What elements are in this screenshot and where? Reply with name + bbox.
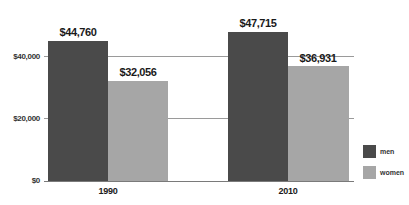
xlabel-2010: 2010 [279,186,298,196]
legend-label-men: men [380,148,394,155]
value-label-1990-men: $44,760 [60,26,97,38]
value-label-2010-men: $47,715 [240,17,277,29]
legend-swatch-men [363,145,376,158]
ytick-40000: $40,000 [13,52,40,61]
xlabel-1990: 1990 [99,186,118,196]
bar-1990-women [108,81,168,181]
bar-1990-men [48,41,108,181]
bar-2010-men [228,32,288,181]
bar-chart: $40,000 $20,000 $0 $44,760 $32,056 $47,7… [0,0,409,205]
value-label-2010-women: $36,931 [300,52,337,64]
ytick-20000: $20,000 [13,114,40,123]
legend-label-women: women [380,169,404,176]
value-label-1990-women: $32,056 [120,66,157,78]
bar-2010-women [288,66,349,181]
legend-swatch-women [363,166,376,179]
ytick-0: $0 [32,176,40,185]
baseline [44,181,354,182]
